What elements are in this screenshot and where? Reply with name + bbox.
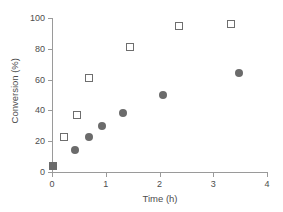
data-point-open-squares (60, 133, 68, 141)
x-tick-mark (52, 173, 53, 177)
x-tick-mark (106, 173, 107, 177)
data-point-open-squares (126, 43, 134, 51)
x-tick-label: 4 (257, 180, 277, 189)
data-point-open-squares (85, 74, 93, 82)
x-tick-mark (160, 173, 161, 177)
data-point-open-squares (227, 20, 235, 28)
conversion-vs-time-scatter-chart: 020406080100 01234 Time (h) Conversion (… (0, 0, 283, 212)
x-axis-title: Time (h) (52, 194, 268, 204)
y-tick-label: 0 (15, 168, 45, 177)
data-point-filled-circles (49, 162, 57, 170)
x-tick-label: 2 (150, 180, 170, 189)
data-point-open-squares (175, 22, 183, 30)
data-point-filled-circles (85, 133, 93, 141)
x-tick-mark (267, 173, 268, 177)
x-tick-label: 3 (203, 180, 223, 189)
data-point-filled-circles (98, 122, 106, 130)
data-point-open-squares (73, 111, 81, 119)
x-tick-label: 0 (42, 180, 62, 189)
y-axis-title: Conversion (%) (10, 14, 20, 168)
x-tick-mark (213, 173, 214, 177)
x-tick-label: 1 (96, 180, 116, 189)
